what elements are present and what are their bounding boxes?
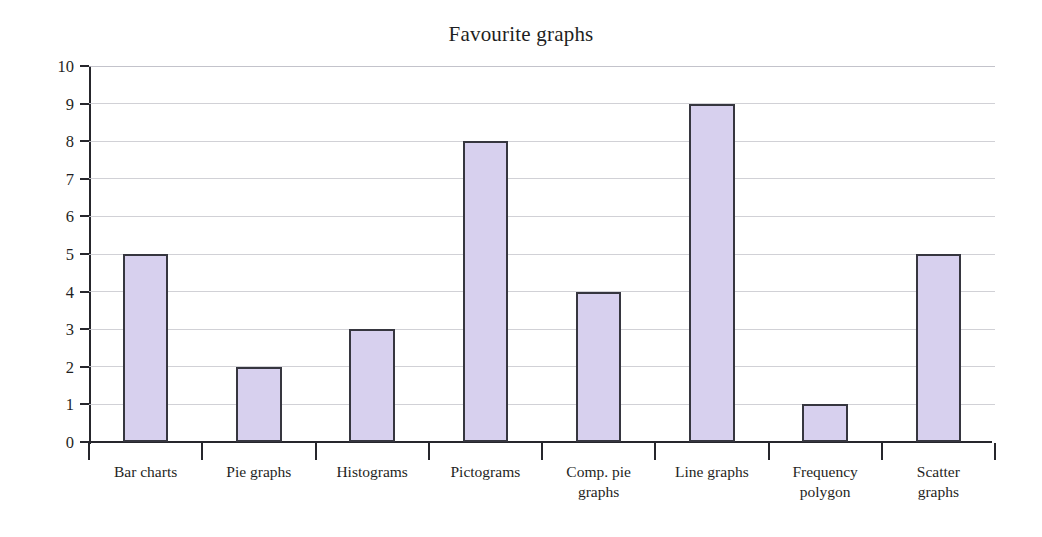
bar [123, 254, 168, 442]
bar-chart: Favourite graphs 109876543210 Bar charts… [0, 0, 1042, 537]
x-axis-tick [201, 443, 203, 460]
x-axis-tick [654, 443, 656, 460]
x-axis-category-label: Frequencypolygon [769, 462, 882, 502]
y-axis-tick [80, 366, 89, 368]
x-axis-category-label: Bar charts [89, 462, 202, 482]
y-axis-tick [80, 403, 89, 405]
x-axis-tick [428, 443, 430, 460]
bar [236, 367, 281, 442]
x-axis-tick [315, 443, 317, 460]
y-axis-tick-label: 4 [40, 283, 74, 303]
x-axis-category-label: Scattergraphs [882, 462, 995, 502]
x-axis-category-label: Comp. piegraphs [542, 462, 655, 502]
x-axis-category-label-line: Line graphs [655, 462, 768, 482]
x-axis-category-label: Pictograms [429, 462, 542, 482]
y-axis-tick-label: 6 [40, 207, 74, 227]
x-axis-tick [88, 443, 90, 460]
x-axis-category-label-line: graphs [882, 482, 995, 502]
x-axis-tick [541, 443, 543, 460]
y-axis-tick-label: 1 [40, 395, 74, 415]
y-axis-tick [80, 103, 89, 105]
x-axis-category-label-line: graphs [542, 482, 655, 502]
y-axis-tick [80, 65, 89, 67]
y-axis-tick-label: 3 [40, 320, 74, 340]
bar [916, 254, 961, 442]
x-axis-tick [768, 443, 770, 460]
y-axis-tick [80, 291, 89, 293]
bar [689, 104, 734, 442]
bar [463, 141, 508, 442]
y-axis-tick-label: 0 [40, 433, 74, 453]
y-axis-tick-label: 8 [40, 132, 74, 152]
y-axis-tick-label: 5 [40, 245, 74, 265]
chart-title: Favourite graphs [0, 22, 1042, 47]
x-axis-category-label-line: Histograms [316, 462, 429, 482]
y-axis-tick-label: 2 [40, 358, 74, 378]
x-axis-category-label-line: Pictograms [429, 462, 542, 482]
x-axis-category-label-line: Pie graphs [202, 462, 315, 482]
bar [349, 329, 394, 442]
x-axis-category-label-line: Bar charts [89, 462, 202, 482]
x-axis-tick [994, 443, 996, 460]
x-axis-category-label-line: Comp. pie [542, 462, 655, 482]
y-axis-tick-label: 7 [40, 170, 74, 190]
x-axis-category-label-line: Frequency [769, 462, 882, 482]
y-axis-tick [80, 178, 89, 180]
x-axis-category-label-line: polygon [769, 482, 882, 502]
y-axis-tick [80, 328, 89, 330]
y-axis-tick [80, 253, 89, 255]
y-axis-tick-label: 9 [40, 95, 74, 115]
x-axis-category-label: Pie graphs [202, 462, 315, 482]
bar [576, 292, 621, 442]
y-axis-tick [80, 215, 89, 217]
x-axis-tick [881, 443, 883, 460]
x-axis-category-label: Histograms [316, 462, 429, 482]
x-axis-category-label-line: Scatter [882, 462, 995, 482]
plot-area [89, 66, 995, 442]
y-axis-tick-label: 10 [40, 57, 74, 77]
x-axis-category-label: Line graphs [655, 462, 768, 482]
y-axis-tick [80, 140, 89, 142]
bar [802, 404, 847, 442]
